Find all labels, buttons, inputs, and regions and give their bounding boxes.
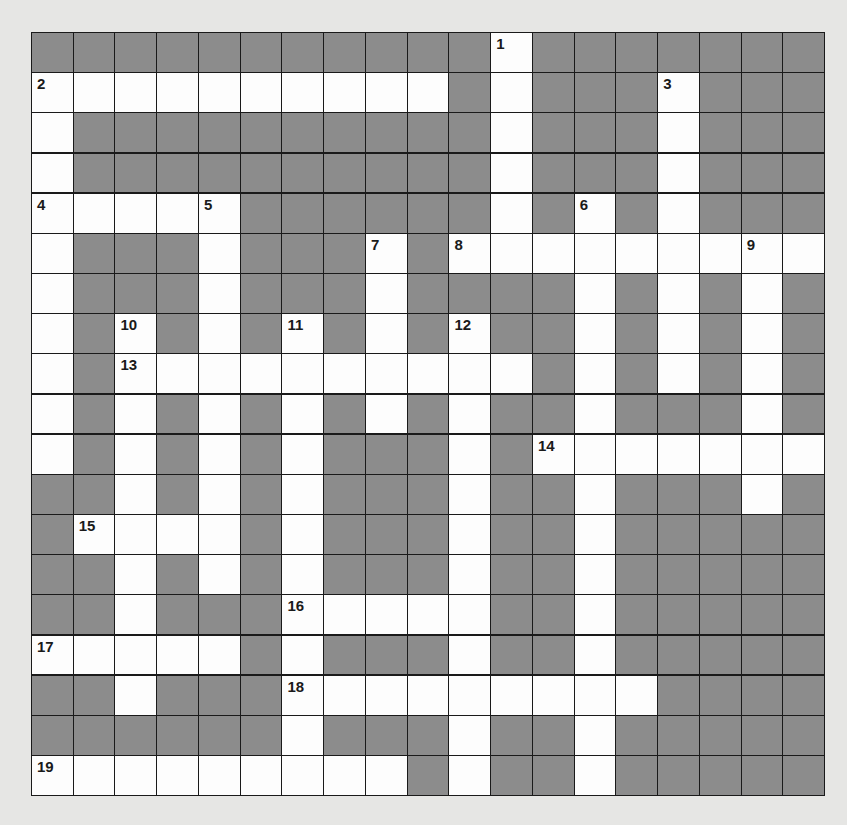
crossword-cell[interactable]: [408, 73, 449, 112]
crossword-cell[interactable]: [115, 73, 156, 112]
crossword-cell[interactable]: [115, 475, 156, 514]
crossword-cell[interactable]: [366, 73, 407, 112]
crossword-cell[interactable]: [282, 515, 323, 554]
crossword-cell[interactable]: [575, 515, 616, 554]
crossword-cell[interactable]: [199, 435, 240, 474]
crossword-cell[interactable]: [282, 555, 323, 594]
crossword-cell[interactable]: [449, 475, 490, 514]
crossword-cell[interactable]: [491, 73, 532, 112]
crossword-cell[interactable]: [533, 676, 574, 715]
crossword-cell[interactable]: [449, 435, 490, 474]
crossword-cell[interactable]: [32, 435, 73, 474]
crossword-cell[interactable]: [324, 73, 365, 112]
crossword-cell[interactable]: [575, 676, 616, 715]
crossword-cell[interactable]: [575, 314, 616, 353]
crossword-cell[interactable]: [32, 274, 73, 313]
crossword-cell[interactable]: [449, 354, 490, 393]
crossword-cell[interactable]: [658, 154, 699, 193]
crossword-cell[interactable]: [199, 234, 240, 273]
crossword-cell[interactable]: [616, 234, 657, 273]
crossword-cell[interactable]: [449, 515, 490, 554]
crossword-cell[interactable]: [658, 113, 699, 152]
crossword-cell[interactable]: [575, 435, 616, 474]
crossword-cell[interactable]: [282, 354, 323, 393]
crossword-cell[interactable]: [700, 234, 741, 273]
crossword-cell[interactable]: [282, 435, 323, 474]
crossword-cell[interactable]: [199, 274, 240, 313]
crossword-cell[interactable]: [658, 354, 699, 393]
crossword-cell[interactable]: [282, 475, 323, 514]
crossword-cell[interactable]: [115, 555, 156, 594]
crossword-cell[interactable]: [575, 595, 616, 634]
crossword-cell[interactable]: [115, 756, 156, 795]
crossword-cell[interactable]: [742, 395, 783, 434]
crossword-cell[interactable]: [157, 73, 198, 112]
crossword-cell[interactable]: 8: [449, 234, 490, 273]
crossword-cell[interactable]: [74, 756, 115, 795]
crossword-cell[interactable]: [324, 354, 365, 393]
crossword-cell[interactable]: 11: [282, 314, 323, 353]
crossword-cell[interactable]: 2: [32, 73, 73, 112]
crossword-cell[interactable]: [366, 314, 407, 353]
crossword-cell[interactable]: 7: [366, 234, 407, 273]
crossword-cell[interactable]: [366, 354, 407, 393]
crossword-cell[interactable]: [157, 194, 198, 233]
crossword-cell[interactable]: [199, 756, 240, 795]
crossword-cell[interactable]: [32, 234, 73, 273]
crossword-cell[interactable]: [282, 395, 323, 434]
crossword-cell[interactable]: [157, 636, 198, 675]
crossword-cell[interactable]: 18: [282, 676, 323, 715]
crossword-cell[interactable]: [74, 73, 115, 112]
crossword-cell[interactable]: [449, 395, 490, 434]
crossword-cell[interactable]: [32, 395, 73, 434]
crossword-cell[interactable]: [408, 676, 449, 715]
crossword-cell[interactable]: 15: [74, 515, 115, 554]
crossword-cell[interactable]: 6: [575, 194, 616, 233]
crossword-cell[interactable]: [575, 354, 616, 393]
crossword-cell[interactable]: [783, 435, 824, 474]
crossword-cell[interactable]: [241, 354, 282, 393]
crossword-cell[interactable]: [199, 475, 240, 514]
crossword-cell[interactable]: 1: [491, 33, 532, 72]
crossword-cell[interactable]: [616, 435, 657, 474]
crossword-cell[interactable]: [324, 756, 365, 795]
crossword-cell[interactable]: [742, 314, 783, 353]
crossword-cell[interactable]: [491, 194, 532, 233]
crossword-cell[interactable]: 13: [115, 354, 156, 393]
crossword-cell[interactable]: [575, 475, 616, 514]
crossword-cell[interactable]: [658, 314, 699, 353]
crossword-cell[interactable]: [658, 435, 699, 474]
crossword-cell[interactable]: [32, 113, 73, 152]
crossword-cell[interactable]: 3: [658, 73, 699, 112]
crossword-cell[interactable]: [241, 756, 282, 795]
crossword-cell[interactable]: [366, 676, 407, 715]
crossword-cell[interactable]: [74, 194, 115, 233]
crossword-cell[interactable]: [199, 555, 240, 594]
crossword-cell[interactable]: [575, 395, 616, 434]
crossword-cell[interactable]: [575, 274, 616, 313]
crossword-cell[interactable]: [115, 636, 156, 675]
crossword-cell[interactable]: [575, 234, 616, 273]
crossword-cell[interactable]: [115, 194, 156, 233]
crossword-cell[interactable]: [533, 234, 574, 273]
crossword-cell[interactable]: [658, 274, 699, 313]
crossword-cell[interactable]: [282, 636, 323, 675]
crossword-cell[interactable]: [575, 636, 616, 675]
crossword-cell[interactable]: 5: [199, 194, 240, 233]
crossword-cell[interactable]: [157, 515, 198, 554]
crossword-cell[interactable]: [742, 274, 783, 313]
crossword-cell[interactable]: [783, 234, 824, 273]
crossword-cell[interactable]: [199, 314, 240, 353]
crossword-cell[interactable]: [658, 234, 699, 273]
crossword-cell[interactable]: [324, 595, 365, 634]
crossword-cell[interactable]: [115, 395, 156, 434]
crossword-cell[interactable]: [115, 676, 156, 715]
crossword-cell[interactable]: [324, 676, 365, 715]
crossword-cell[interactable]: [742, 475, 783, 514]
crossword-cell[interactable]: [74, 636, 115, 675]
crossword-cell[interactable]: 16: [282, 595, 323, 634]
crossword-cell[interactable]: [282, 756, 323, 795]
crossword-cell[interactable]: [742, 435, 783, 474]
crossword-cell[interactable]: [366, 756, 407, 795]
crossword-cell[interactable]: [491, 354, 532, 393]
